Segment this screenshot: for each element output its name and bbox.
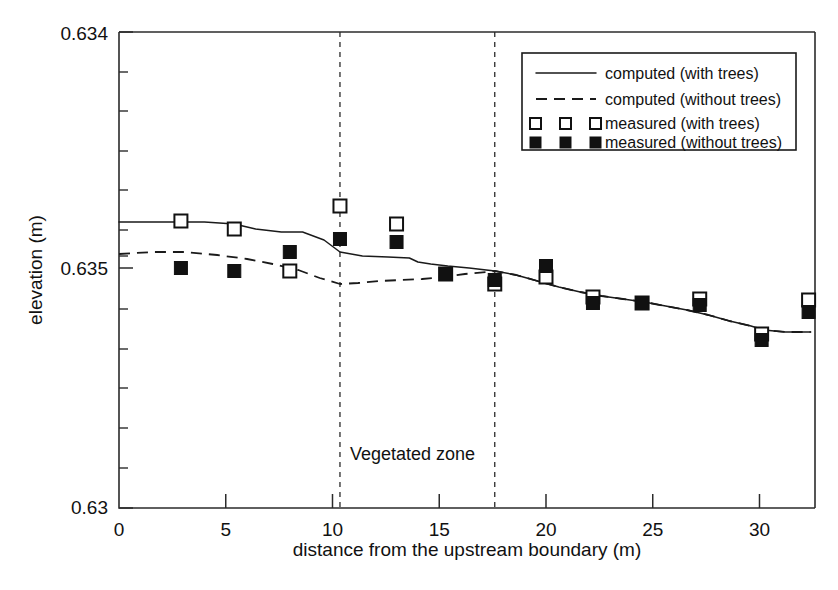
y-axis-ticks bbox=[119, 32, 133, 508]
data-marker-filled-square bbox=[439, 268, 452, 281]
x-tick-label: 25 bbox=[642, 519, 663, 540]
data-marker-filled-square bbox=[228, 265, 241, 278]
open-square-icon bbox=[560, 118, 571, 129]
data-marker-filled-square bbox=[755, 334, 768, 347]
data-marker-filled-square bbox=[802, 306, 815, 319]
data-marker-open-square bbox=[333, 200, 346, 213]
x-tick-labels: 051015202530 bbox=[114, 519, 770, 540]
legend-label: computed (without trees) bbox=[605, 91, 781, 108]
y-axis-title: elevation (m) bbox=[25, 215, 46, 325]
legend-label: measured (with trees) bbox=[605, 115, 760, 132]
vegetated-zone-annotation: Vegetated zone bbox=[350, 444, 475, 464]
data-marker-filled-square bbox=[539, 260, 552, 273]
y-tick-label-top: 0.634 bbox=[60, 23, 108, 44]
x-tick-label: 15 bbox=[429, 519, 450, 540]
legend: computed (with trees) computed (without … bbox=[522, 53, 796, 151]
data-marker-filled-square bbox=[693, 299, 706, 312]
data-marker-open-square bbox=[228, 223, 241, 236]
filled-square-icon bbox=[590, 137, 601, 148]
legend-label: measured (without trees) bbox=[605, 134, 782, 151]
y-tick-label-bottom: 0.63 bbox=[71, 497, 108, 518]
x-axis-ticks bbox=[226, 494, 760, 508]
data-marker-filled-square bbox=[586, 297, 599, 310]
data-marker-open-square bbox=[390, 218, 403, 231]
y-tick-label-mid: 0.635 bbox=[60, 258, 108, 279]
x-tick-label: 20 bbox=[535, 519, 556, 540]
legend-item-measured-with-trees: measured (with trees) bbox=[530, 115, 760, 132]
data-marker-filled-square bbox=[283, 246, 296, 259]
x-tick-label: 5 bbox=[220, 519, 231, 540]
x-tick-label: 0 bbox=[114, 519, 125, 540]
data-marker-open-square bbox=[802, 294, 815, 307]
open-square-icon bbox=[530, 118, 541, 129]
vegetated-zone-boundaries bbox=[340, 32, 495, 508]
x-axis-title: distance from the upstream boundary (m) bbox=[293, 539, 642, 560]
legend-item-measured-without-trees: measured (without trees) bbox=[530, 134, 782, 151]
chart-canvas: 051015202530 0.634 0.635 0.63 distance f… bbox=[0, 0, 838, 590]
filled-square-icon bbox=[530, 137, 541, 148]
open-square-icon bbox=[590, 118, 601, 129]
data-marker-open-square bbox=[174, 215, 187, 228]
data-marker-filled-square bbox=[636, 297, 649, 310]
series-measured-with-trees bbox=[174, 200, 815, 341]
data-marker-filled-square bbox=[390, 236, 403, 249]
x-tick-label: 10 bbox=[322, 519, 343, 540]
legend-label: computed (with trees) bbox=[605, 65, 759, 82]
data-marker-filled-square bbox=[488, 274, 501, 287]
data-marker-filled-square bbox=[333, 233, 346, 246]
x-tick-label: 30 bbox=[749, 519, 770, 540]
filled-square-icon bbox=[560, 137, 571, 148]
data-marker-open-square bbox=[283, 265, 296, 278]
figure-container: 051015202530 0.634 0.635 0.63 distance f… bbox=[0, 0, 838, 590]
data-marker-filled-square bbox=[174, 262, 187, 275]
